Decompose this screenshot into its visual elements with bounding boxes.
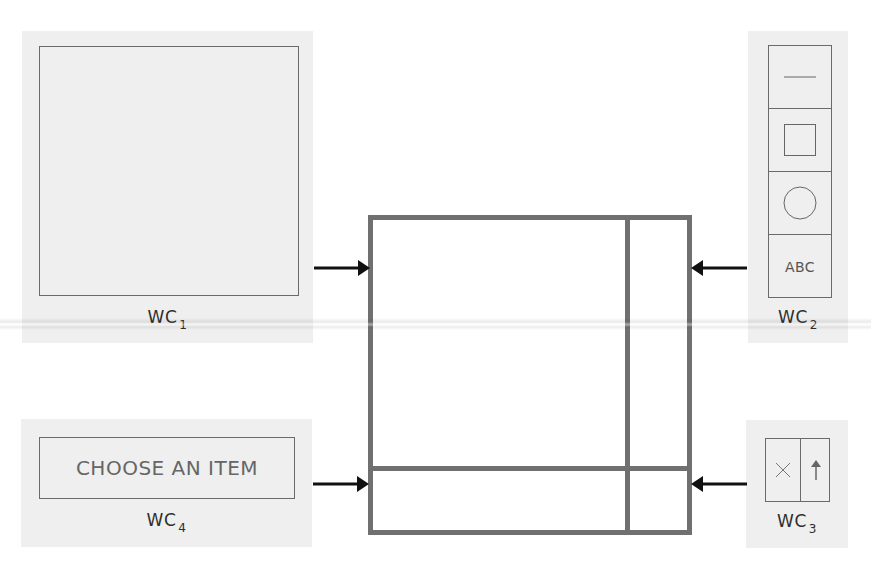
wc2-label: WC2 bbox=[748, 307, 848, 332]
confirm-button[interactable] bbox=[801, 439, 830, 501]
bottom-row bbox=[373, 471, 625, 530]
tool-ellipse[interactable] bbox=[769, 172, 831, 235]
right-column bbox=[630, 220, 687, 466]
tool-rectangle[interactable] bbox=[769, 109, 831, 172]
canvas-area[interactable] bbox=[39, 46, 299, 296]
tool-line[interactable] bbox=[769, 46, 831, 109]
arrow-up-icon bbox=[809, 459, 823, 481]
text-icon: ABC bbox=[785, 259, 815, 275]
wc2-panel: ABC WC2 bbox=[748, 31, 848, 343]
bottom-right-cell bbox=[630, 471, 687, 530]
wc1-panel: WC1 bbox=[22, 31, 313, 343]
cancel-button[interactable] bbox=[766, 439, 801, 501]
tool-palette: ABC bbox=[768, 45, 832, 298]
choose-item-dropdown[interactable]: CHOOSE AN ITEM bbox=[39, 437, 295, 499]
wc4-panel: CHOOSE AN ITEM WC4 bbox=[21, 419, 312, 547]
arrow-wc2-to-right bbox=[691, 258, 747, 278]
arrow-wc1-to-main bbox=[314, 258, 370, 278]
wc4-label: WC4 bbox=[21, 510, 312, 535]
tool-text[interactable]: ABC bbox=[769, 235, 831, 298]
main-area bbox=[373, 220, 625, 466]
arrow-wc3-to-bottom-right bbox=[691, 474, 747, 494]
line-icon bbox=[783, 75, 817, 79]
wc3-panel: WC3 bbox=[746, 420, 848, 548]
dropdown-value: CHOOSE AN ITEM bbox=[40, 438, 294, 498]
vertical-divider bbox=[625, 220, 630, 530]
horizontal-divider bbox=[373, 466, 687, 471]
composite-window bbox=[368, 215, 692, 535]
wc1-label: WC1 bbox=[22, 307, 313, 332]
circle-icon bbox=[782, 185, 818, 221]
close-icon bbox=[774, 461, 792, 479]
button-group bbox=[765, 438, 830, 502]
arrow-wc4-to-bottom bbox=[313, 474, 369, 494]
square-icon bbox=[783, 123, 817, 157]
wc3-label: WC3 bbox=[746, 511, 848, 536]
